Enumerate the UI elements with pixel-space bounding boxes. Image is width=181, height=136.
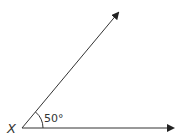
inclined-ray bbox=[22, 13, 118, 128]
angle-label: 50° bbox=[44, 112, 64, 125]
angle-arc bbox=[36, 112, 44, 128]
vertex-label: X bbox=[6, 121, 17, 136]
angle-diagram: X 50° bbox=[0, 0, 181, 136]
